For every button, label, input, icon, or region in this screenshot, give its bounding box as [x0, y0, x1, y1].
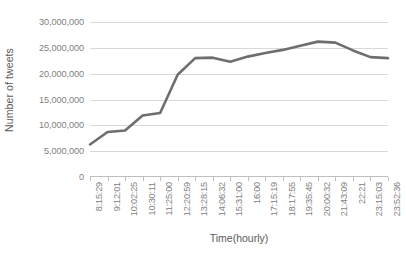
y-axis-title-label: Number of tweets — [3, 48, 15, 132]
x-axis-tick-label: 20:00:32 — [322, 182, 332, 216]
x-axis-tick-mark — [195, 177, 196, 181]
x-axis-tick-label: 8:15:29 — [94, 182, 104, 211]
x-axis-tick-label: 10:02:25 — [129, 182, 139, 216]
x-axis-tick-label: 15:31:00 — [234, 182, 244, 216]
x-axis-tick-mark — [125, 177, 126, 181]
series-line-tweets — [90, 22, 388, 177]
x-axis-tick-mark — [335, 177, 336, 181]
y-axis-title: Number of tweets — [0, 0, 18, 180]
y-axis-tick-label: 20,000,000 — [39, 69, 84, 79]
x-axis-tick-label: 23:15:03 — [374, 182, 384, 216]
x-axis-tick-mark — [370, 177, 371, 181]
x-axis-tick-mark — [230, 177, 231, 181]
x-axis-tick-label: 11:25:00 — [164, 182, 174, 215]
x-axis-tick-mark — [353, 177, 354, 181]
x-axis-tick-label: 12:20:59 — [182, 182, 192, 216]
x-axis-tick-mark — [143, 177, 144, 181]
x-axis-tick-mark — [178, 177, 179, 181]
x-axis-tick-label: 21:43:09 — [339, 182, 349, 216]
x-axis-tick-label: 19:35:45 — [304, 182, 314, 216]
y-axis-tick-label: 0 — [79, 172, 84, 182]
tweets-over-time-line-chart: Number of tweets 30,000,00025,000,00020,… — [0, 0, 406, 258]
x-axis-tick-mark — [283, 177, 284, 181]
x-axis-tick-mark — [160, 177, 161, 181]
x-axis-tick-mark — [318, 177, 319, 181]
plot-area — [90, 22, 388, 177]
x-axis-title: Time(hourly) — [90, 232, 388, 244]
x-axis-tick-label: 18:17:55 — [287, 182, 297, 216]
y-axis-tick-label: 10,000,000 — [39, 120, 84, 130]
series-polyline — [90, 42, 388, 145]
x-axis-tick-mark — [108, 177, 109, 181]
y-axis-tick-label: 30,000,000 — [39, 17, 84, 27]
y-axis-tick-label: 25,000,000 — [39, 43, 84, 53]
x-axis-tick-label: 14:06:32 — [217, 182, 227, 216]
x-axis-tick-mark — [90, 177, 91, 181]
x-axis-tick-marks — [90, 177, 388, 181]
x-axis-tick-label: 23:52:36 — [392, 182, 402, 216]
y-axis-tick-labels: 30,000,00025,000,00020,000,00015,000,000… — [18, 0, 88, 190]
x-axis-tick-mark — [248, 177, 249, 181]
x-axis-tick-label: 22:21 — [357, 182, 367, 204]
x-axis-tick-mark — [265, 177, 266, 181]
y-axis-tick-label: 5,000,000 — [44, 146, 84, 156]
x-axis-tick-label: 16:00 — [252, 182, 262, 204]
x-axis-tick-labels: 8:15:299:12:0110:02:2510:30:1111:25:0012… — [90, 182, 388, 228]
x-axis-tick-label: 17:15:19 — [269, 182, 279, 216]
x-axis-tick-mark — [213, 177, 214, 181]
x-axis-tick-mark — [300, 177, 301, 181]
x-axis-tick-label: 13:28:15 — [199, 182, 209, 216]
y-axis-tick-label: 15,000,000 — [39, 95, 84, 105]
x-axis-tick-label: 10:30:11 — [147, 182, 157, 215]
x-axis-tick-label: 9:12:01 — [112, 182, 122, 211]
x-axis-tick-mark — [388, 177, 389, 181]
